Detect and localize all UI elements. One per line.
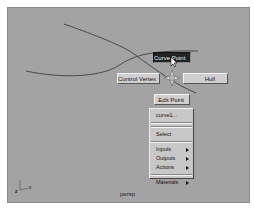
axis-x-label: x bbox=[29, 184, 32, 190]
menu-separator bbox=[151, 122, 192, 124]
edit-point-button[interactable]: Edit Point bbox=[154, 94, 190, 105]
submenu-arrow-icon bbox=[186, 157, 189, 161]
menu-separator bbox=[151, 174, 192, 176]
submenu-arrow-icon bbox=[186, 181, 189, 185]
menu-item-select[interactable]: Select bbox=[150, 130, 193, 139]
menu-separator bbox=[151, 141, 192, 143]
menu-item-label: Select bbox=[156, 131, 171, 137]
camera-label: persp bbox=[120, 191, 135, 197]
hull-button[interactable]: Hull bbox=[183, 73, 228, 84]
marking-menu-center-icon bbox=[164, 69, 180, 87]
submenu-arrow-icon bbox=[186, 148, 189, 152]
menu-item-outputs[interactable]: Outputs bbox=[150, 154, 193, 163]
menu-item-label: Materials bbox=[156, 179, 178, 185]
axis-z-label: z bbox=[15, 188, 18, 194]
menu-item-inputs[interactable]: Inputs bbox=[150, 145, 193, 154]
menu-separator bbox=[151, 126, 192, 128]
menu-item-label: Inputs bbox=[156, 146, 171, 152]
menu-item-curve1[interactable]: curve1... bbox=[150, 111, 193, 120]
menu-item-label: Actions bbox=[156, 164, 174, 170]
axis-indicator-icon: z x bbox=[14, 176, 34, 196]
menu-item-label: Outputs bbox=[156, 155, 175, 161]
submenu-arrow-icon bbox=[186, 166, 189, 170]
menu-item-materials[interactable]: Materials bbox=[150, 178, 193, 187]
menu-item-actions[interactable]: Actions bbox=[150, 163, 193, 172]
context-menu: curve1... Select Inputs Outputs Actions … bbox=[149, 108, 194, 179]
perspective-viewport[interactable]: Curve Point Control Vertex Hull Edit Poi… bbox=[7, 7, 250, 203]
menu-item-label: curve1... bbox=[156, 112, 177, 118]
curves-layer bbox=[8, 8, 250, 203]
control-vertex-button[interactable]: Control Vertex bbox=[117, 73, 160, 84]
mouse-cursor-icon bbox=[170, 56, 178, 68]
